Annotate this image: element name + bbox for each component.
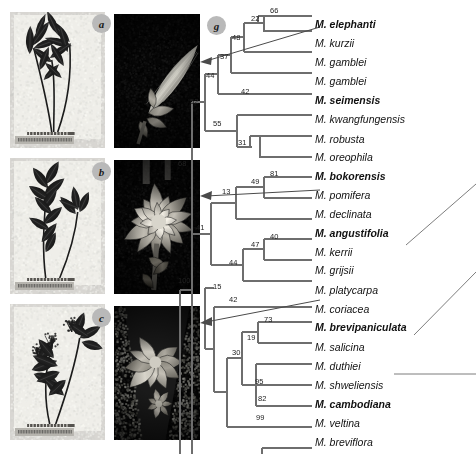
- leader-arrow-to-plate-c: [206, 300, 320, 322]
- bootstrap-value: 95: [255, 378, 263, 386]
- bootstrap-value: 82: [258, 395, 266, 403]
- bootstrap-value: 40: [270, 233, 278, 241]
- bootstrap-value: 100: [178, 277, 191, 285]
- bootstrap-value: 42: [229, 296, 237, 304]
- tip-label: M. declinata: [315, 209, 372, 220]
- bootstrap-value: 15: [213, 283, 221, 291]
- leader-line-brevipaniculata-right: [414, 272, 476, 335]
- tip-label: M. bokorensis: [315, 171, 386, 182]
- tip-label: M. pomifera: [315, 190, 370, 201]
- bootstrap-value: 47: [251, 241, 259, 249]
- bootstrap-value: 44: [206, 72, 214, 80]
- tip-label: M. duthiei: [315, 361, 361, 372]
- tip-label: M. grijsii: [315, 265, 354, 276]
- phylogenetic-tree: [0, 0, 476, 454]
- tip-label: M. salicina: [315, 342, 365, 353]
- tip-label: M. platycarpa: [315, 285, 378, 296]
- tip-label: M. kwangfungensis: [315, 114, 405, 125]
- tip-label: M. seimensis: [315, 95, 380, 106]
- tip-label: M. shweliensis: [315, 380, 383, 391]
- tip-label: M. kurzii: [315, 38, 354, 49]
- bootstrap-value: 73: [264, 316, 272, 324]
- bootstrap-value: 68: [178, 160, 186, 168]
- bootstrap-value: 30: [232, 349, 240, 357]
- bootstrap-value: 37: [220, 53, 228, 61]
- bootstrap-value: 44: [229, 259, 237, 267]
- figure-panel: a g b c: [0, 0, 476, 454]
- leader-arrowheads: [200, 57, 212, 326]
- tip-label: M. breviflora: [315, 437, 373, 448]
- bootstrap-value: 66: [270, 7, 278, 15]
- bootstrap-value: 22: [251, 15, 259, 23]
- tip-label: M. brevipaniculata: [315, 322, 407, 333]
- tip-label: M. gamblei: [315, 76, 366, 87]
- tip-label: M. oreophila: [315, 152, 373, 163]
- tip-label: M. elephanti: [315, 19, 376, 30]
- bootstrap-value: 81: [270, 170, 278, 178]
- tip-label: M. robusta: [315, 134, 365, 145]
- bootstrap-value: 13: [222, 188, 230, 196]
- bootstrap-value: 41: [196, 224, 204, 232]
- bootstrap-value: 52: [190, 98, 198, 106]
- bootstrap-value: 48: [232, 34, 240, 42]
- tip-label: M. veltina: [315, 418, 360, 429]
- tip-label: M. kerrii: [315, 247, 352, 258]
- bootstrap-value: 19: [247, 334, 255, 342]
- tip-label: M. cambodiana: [315, 399, 391, 410]
- leader-line-angustifolia-right: [406, 184, 476, 245]
- bootstrap-value: 31: [238, 139, 246, 147]
- bootstrap-value: 99: [256, 414, 264, 422]
- bootstrap-value: 55: [213, 120, 221, 128]
- bootstrap-value: 49: [251, 178, 259, 186]
- tip-label: M. gamblei: [315, 57, 366, 68]
- tip-label: M. coriacea: [315, 304, 369, 315]
- bootstrap-value: 42: [241, 88, 249, 96]
- tip-label: M. angustifolia: [315, 228, 389, 239]
